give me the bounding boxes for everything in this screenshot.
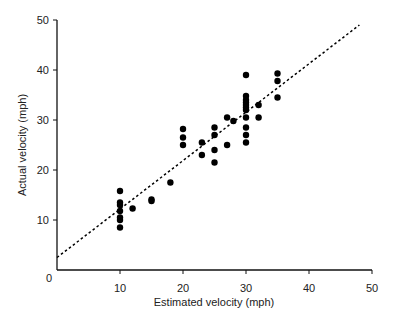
y-tick-label: 50 [37,14,49,26]
data-points [117,70,281,230]
data-point [211,147,217,153]
tick-marks [53,20,372,274]
fit-line-segment [57,25,359,258]
y-tick-label: 20 [37,164,49,176]
tick-labels: 010203040501020304050 [37,14,378,294]
data-point [129,205,135,211]
data-point [117,199,123,205]
data-point [211,124,217,130]
data-point [180,126,186,132]
fit-line [57,25,359,258]
x-tick-label: 30 [240,282,252,294]
y-tick-label: 10 [37,214,49,226]
scatter-chart: 010203040501020304050 Estimated velocity… [0,0,395,323]
data-point [224,142,230,148]
data-point [243,93,249,99]
data-point [167,179,173,185]
data-point [199,139,205,145]
data-point [274,70,280,76]
data-point [243,139,249,145]
data-point [117,224,123,230]
data-point [243,114,249,120]
data-point [180,142,186,148]
data-point [274,78,280,84]
data-point [117,208,123,214]
y-tick-label: 40 [37,64,49,76]
x-tick-label: 20 [177,282,189,294]
data-point [230,118,236,124]
data-point [117,214,123,220]
data-point [211,159,217,165]
data-point [148,196,154,202]
x-axis-title: Estimated velocity (mph) [154,296,274,308]
data-point [255,114,261,120]
x-tick-label: 10 [114,282,126,294]
x-tick-label: 50 [366,282,378,294]
data-point [255,102,261,108]
y-axis-title: Actual velocity (mph) [16,94,28,196]
data-point [117,188,123,194]
data-point [224,114,230,120]
axes [57,20,372,270]
x-tick-label: 0 [46,272,52,284]
data-point [243,124,249,130]
data-point [274,94,280,100]
data-point [199,152,205,158]
data-point [243,132,249,138]
y-tick-label: 30 [37,114,49,126]
data-point [211,132,217,138]
x-tick-label: 40 [303,282,315,294]
data-point [180,134,186,140]
data-point [243,72,249,78]
